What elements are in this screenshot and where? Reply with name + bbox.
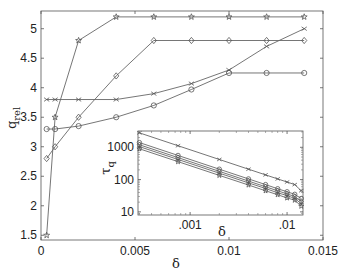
inset-y-axis-label-sub: q <box>105 161 116 168</box>
main-y-tick-label: 3.5 <box>20 110 37 124</box>
main-y-axis-label: qrel <box>4 107 22 129</box>
main-x-tick-label: 0 <box>38 244 45 258</box>
main-x-tick-label: 0.005 <box>120 244 150 258</box>
inset-x-tick-label: .001 <box>178 218 202 232</box>
inset-x-axis-label: δ <box>218 224 226 239</box>
inset-y-tick-label: 1000 <box>107 140 134 154</box>
main-y-axis-label-sub: rel <box>11 107 22 121</box>
main-y-tick-label: 5 <box>30 22 37 36</box>
main-x-tick-label: 0.01 <box>217 244 241 258</box>
chart: 00.0050.010.0151.522.533.544.55 δ qrel .… <box>0 0 348 274</box>
main-y-tick-label: 3 <box>30 140 37 154</box>
inset-y-tick-label: 100 <box>114 173 134 187</box>
inset-y-tick-label: 10 <box>121 205 135 219</box>
main-x-tick-label: 0.015 <box>308 244 338 258</box>
inset-y-axis-label-base: τ <box>98 168 113 175</box>
main-y-tick-label: 4 <box>30 81 37 95</box>
main-y-tick-label: 2 <box>30 199 37 213</box>
main-y-tick-label: 4.5 <box>20 51 37 65</box>
inset-x-tick-label: .01 <box>279 218 296 232</box>
main-y-tick-label: 2.5 <box>20 169 37 183</box>
svg-text:qrel: qrel <box>4 107 22 129</box>
main-y-tick-label: 1.5 <box>20 228 37 242</box>
main-y-axis-label-base: q <box>4 121 19 129</box>
main-x-axis-label: δ <box>172 256 180 271</box>
